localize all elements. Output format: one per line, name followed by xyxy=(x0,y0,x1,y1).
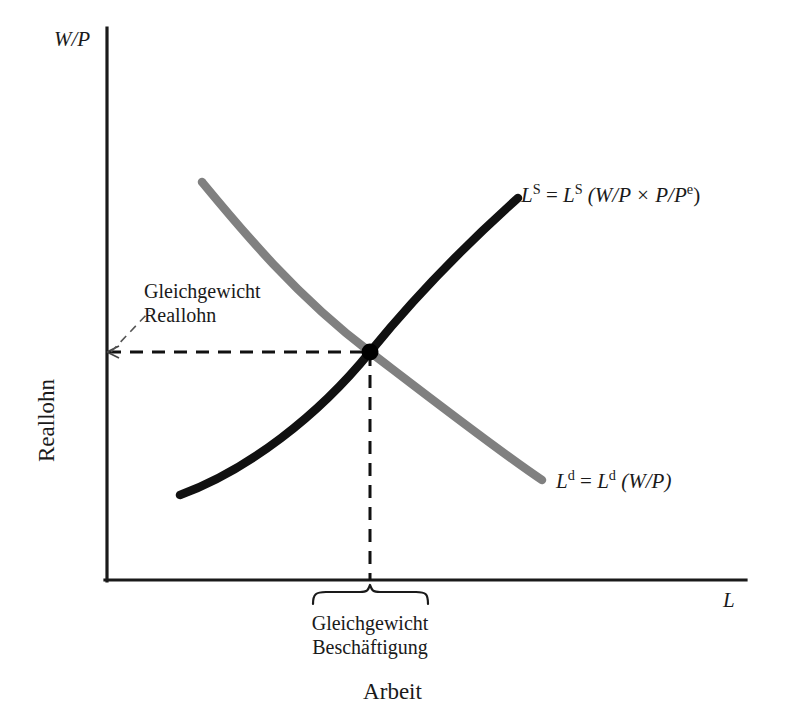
demand-sup1: d xyxy=(568,467,575,483)
supply-args: (W/P × P/P xyxy=(583,183,687,207)
supply-sup1: S xyxy=(533,181,541,197)
supply-eq: = xyxy=(541,183,563,207)
equilibrium-employment-line-2: Beschäftigung xyxy=(240,636,500,660)
supply-sup2: S xyxy=(575,181,583,197)
x-axis-symbol-label: L xyxy=(723,588,735,613)
y-axis-symbol-label: W/P xyxy=(54,27,90,52)
demand-args: (W/P) xyxy=(616,469,671,493)
equilibrium-wage-line-1: Gleichgewicht xyxy=(144,280,261,304)
demand-eq: = xyxy=(575,469,597,493)
supply-L2: L xyxy=(563,183,575,207)
labour-demand-curve-label: Ld = Ld (W/P) xyxy=(556,467,671,494)
labour-market-diagram: W/P Reallohn L Arbeit LS = LS (W/P × P/P… xyxy=(0,0,785,719)
x-axis-title: Arbeit xyxy=(0,678,785,705)
equilibrium-employment-annotation: GleichgewichtBeschäftigung xyxy=(240,612,500,659)
labour-supply-curve xyxy=(180,198,518,495)
equilibrium-wage-line-2: Reallohn xyxy=(144,304,261,328)
equilibrium-employment-line-1: Gleichgewicht xyxy=(240,612,500,636)
demand-sup2: d xyxy=(609,467,616,483)
supply-close: ) xyxy=(693,183,700,207)
labour-supply-curve-label: LS = LS (W/P × P/Pe) xyxy=(521,181,700,208)
equilibrium-point xyxy=(362,344,379,361)
supply-L1: L xyxy=(521,183,533,207)
demand-L2: L xyxy=(597,469,609,493)
y-axis-title: Reallohn xyxy=(33,232,60,462)
equilibrium-wage-annotation: GleichgewichtReallohn xyxy=(144,280,261,327)
equilibrium-employment-brace xyxy=(313,585,428,604)
demand-L1: L xyxy=(556,469,568,493)
